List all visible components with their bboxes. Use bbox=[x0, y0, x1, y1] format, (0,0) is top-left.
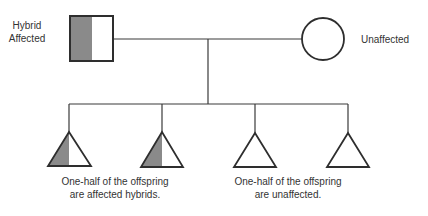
mother-circle-symbol bbox=[302, 18, 344, 60]
father-label-line-1: Hybrid bbox=[9, 19, 46, 32]
father-label-line-2: Affected bbox=[9, 32, 46, 45]
caption-unaffected: One-half of the offspring are unaffected… bbox=[234, 175, 341, 201]
caption-affected-line-2: are affected hybrids. bbox=[61, 188, 168, 201]
caption-unaffected-line-2: are unaffected. bbox=[234, 188, 341, 201]
caption-affected: One-half of the offspring are affected h… bbox=[61, 175, 168, 201]
offspring-triangle-4 bbox=[327, 133, 369, 167]
father-square-symbol bbox=[70, 16, 113, 61]
offspring-triangle-1 bbox=[48, 132, 91, 166]
mother-label: Unaffected bbox=[361, 33, 409, 46]
father-label: Hybrid Affected bbox=[9, 19, 46, 45]
caption-unaffected-line-1: One-half of the offspring bbox=[234, 175, 341, 188]
offspring-triangle-3 bbox=[234, 133, 276, 167]
offspring-triangle-2 bbox=[141, 132, 183, 167]
caption-affected-line-1: One-half of the offspring bbox=[61, 175, 168, 188]
